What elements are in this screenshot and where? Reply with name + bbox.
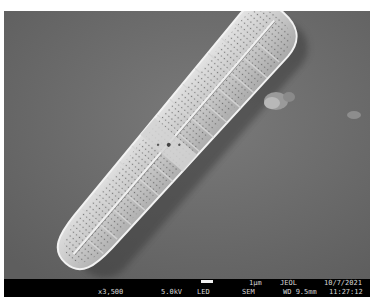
voltage-label: 5.0kV [161, 288, 182, 296]
scale-bar [201, 280, 213, 283]
mode-label: SEM [242, 288, 255, 296]
time-label: 11:27:12 [329, 288, 363, 296]
manufacturer-label: JEOL [280, 279, 297, 287]
scale-label: 1µm [249, 279, 262, 287]
diatom-illustration [4, 11, 370, 279]
working-distance-label: WD 9.5mm [283, 288, 317, 296]
sem-image [4, 11, 370, 279]
date-label: 10/7/2021 [324, 279, 362, 287]
sem-data-bar: 1µm JEOL 10/7/2021 x3,500 5.0kV LED SEM … [4, 279, 370, 297]
detector-label: LED [197, 288, 210, 296]
magnification-label: x3,500 [98, 288, 123, 296]
